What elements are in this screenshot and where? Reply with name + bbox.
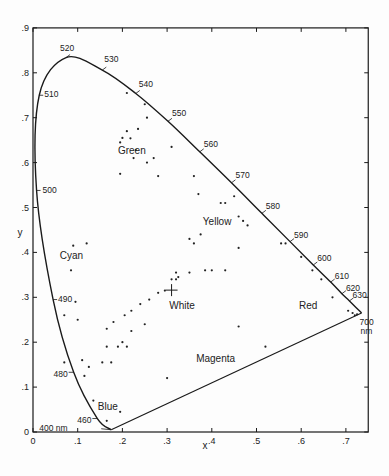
wavelength-label: 600 [317, 253, 331, 263]
wavelength-label: 590 [294, 230, 308, 240]
data-point [117, 346, 119, 348]
y-tick-label: .4 [21, 247, 29, 257]
data-point [106, 346, 108, 348]
data-point [193, 242, 195, 244]
wavelength-label: 530 [104, 54, 118, 64]
y-tick-label: 0 [24, 427, 29, 437]
data-point [119, 411, 121, 413]
data-point [139, 303, 141, 305]
wavelength-label: 610 [335, 271, 349, 281]
data-point [83, 375, 85, 377]
data-point [121, 341, 123, 343]
wavelength-label: 480 [53, 369, 67, 379]
data-point [88, 366, 90, 368]
wavelength-label: 550 [172, 108, 186, 118]
data-point [157, 292, 159, 294]
data-point [242, 220, 244, 222]
data-point [166, 377, 168, 379]
data-point [347, 310, 349, 312]
region-label-green: Green [118, 145, 146, 156]
data-point [106, 420, 108, 422]
wavelength-label: 400 nm [39, 423, 67, 433]
region-label-magenta: Magenta [196, 353, 235, 364]
region-label-blue: Blue [98, 401, 118, 412]
data-point [144, 103, 146, 105]
data-point [112, 321, 114, 323]
data-point [356, 313, 358, 315]
data-point [177, 276, 179, 278]
y-tick-label: .8 [21, 68, 29, 78]
region-label-white: White [169, 300, 195, 311]
data-point [224, 202, 226, 204]
data-point [132, 157, 134, 159]
region-label-cyan: Cyan [60, 250, 83, 261]
x-tick-label: .4 [208, 436, 216, 446]
x-tick-label: .3 [163, 436, 171, 446]
data-point [72, 245, 74, 247]
wavelength-label: 700nm [360, 317, 374, 336]
wavelength-label: 490 [58, 294, 72, 304]
data-point [153, 157, 155, 159]
data-point [238, 247, 240, 249]
spectral-locus: 400 nm4604804905005105205305405505605705… [35, 43, 374, 433]
region-label-red: Red [299, 300, 317, 311]
data-point [101, 361, 103, 363]
data-point [106, 328, 108, 330]
data-point [193, 175, 195, 177]
data-point [124, 314, 126, 316]
wavelength-label: 630 [352, 290, 366, 300]
data-point [200, 233, 202, 235]
x-tick-label: .7 [342, 436, 350, 446]
data-point [175, 272, 177, 274]
data-point [204, 269, 206, 271]
y-tick-label: .7 [21, 113, 29, 123]
data-point [197, 193, 199, 195]
data-point [170, 146, 172, 148]
chromaticity-chart: 0.1.2.3.4.5.6.7 0.1.2.3.4.5.6.7.8.9 400 … [0, 0, 389, 476]
wavelength-label: 500 [43, 185, 57, 195]
data-point [175, 278, 177, 280]
data-point [92, 399, 94, 401]
wavelength-label: 540 [139, 79, 153, 89]
data-point [130, 310, 132, 312]
wavelength-label: 510 [44, 89, 58, 99]
data-point [211, 269, 213, 271]
data-point [137, 128, 139, 130]
data-point [320, 278, 322, 280]
data-point [352, 312, 354, 314]
data-point [157, 175, 159, 177]
x-tick-label: 0 [30, 436, 35, 446]
region-labels: GreenYellowCyanWhiteRedMagentaBlue [60, 145, 318, 413]
wavelength-label: 580 [266, 201, 280, 211]
y-tick-label: .2 [21, 337, 29, 347]
data-point [126, 346, 128, 348]
data-point [170, 278, 172, 280]
y-tick-label: .5 [21, 203, 29, 213]
data-point [238, 215, 240, 217]
data-point [63, 314, 65, 316]
wavelength-label: 520 [60, 43, 74, 53]
data-point [119, 173, 121, 175]
data-point [238, 325, 240, 327]
data-point [264, 346, 266, 348]
data-point [300, 256, 302, 258]
data-point [86, 242, 88, 244]
data-point [284, 242, 286, 244]
x-axis-title: x [203, 440, 208, 451]
data-point [188, 272, 190, 274]
y-tick-label: .3 [21, 292, 29, 302]
x-tick-label: .6 [297, 436, 305, 446]
data-point [119, 141, 121, 143]
data-point [220, 202, 222, 204]
x-tick-label: .5 [253, 436, 261, 446]
y-axis-ticks: 0.1.2.3.4.5.6.7.8.9 [21, 23, 368, 437]
data-point [129, 137, 131, 139]
wavelength-label: 460 [77, 415, 91, 425]
region-label-yellow: Yellow [203, 216, 232, 227]
plot-border [33, 28, 368, 432]
wavelength-label: 570 [235, 170, 249, 180]
data-point [233, 195, 235, 197]
data-point [188, 238, 190, 240]
data-point [126, 130, 128, 132]
wavelength-label: 560 [204, 139, 218, 149]
